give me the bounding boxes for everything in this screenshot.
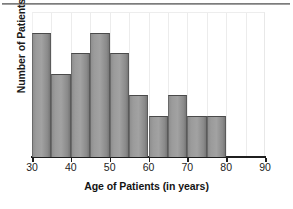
plot-area (32, 12, 265, 157)
histogram-bar (32, 33, 51, 157)
gridline (226, 12, 227, 157)
x-tick-label: 50 (95, 161, 125, 173)
histogram-bar (129, 95, 148, 157)
histogram-bar (51, 74, 70, 157)
x-tick-label: 60 (134, 161, 164, 173)
x-tick-label: 90 (250, 161, 280, 173)
histogram-bar (110, 53, 129, 157)
histogram-figure: Number of Patients 30405060708090 Age of… (0, 0, 293, 209)
x-tick-label: 40 (56, 161, 86, 173)
histogram-bar (71, 53, 90, 157)
top-divider-rule (2, 3, 290, 5)
x-tick-label: 80 (211, 161, 241, 173)
histogram-bar (90, 33, 109, 157)
histogram-bar (149, 116, 168, 157)
gridline (246, 12, 247, 157)
x-axis-title: Age of Patients (in years) (0, 180, 293, 192)
histogram-bar (187, 116, 206, 157)
x-tick-label: 30 (17, 161, 47, 173)
histogram-bar (207, 116, 226, 157)
histogram-bar (168, 95, 187, 157)
x-tick-label: 70 (172, 161, 202, 173)
y-axis-title: Number of Patients (13, 0, 29, 116)
